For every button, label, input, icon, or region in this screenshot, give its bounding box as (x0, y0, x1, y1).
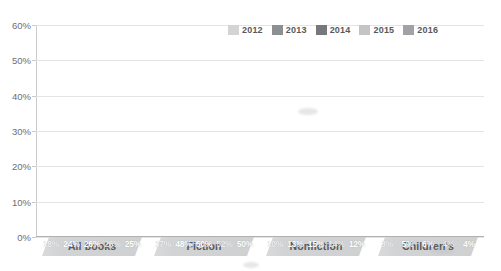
category-fiction: Fiction (148, 237, 260, 259)
category-nonfiction: Nonfiction (260, 237, 372, 259)
chart-legend: 20122013201420152016 (228, 25, 438, 35)
scuff-mark-2 (243, 262, 259, 268)
y-tick-label-60: 60% (12, 20, 31, 31)
bar-chart: 20122013201420152016 0%10%20%30%40%50%60… (0, 0, 501, 271)
y-tick-label-40: 40% (12, 90, 31, 101)
bar-group-all-books: 18%24%26%26%25% (36, 25, 148, 237)
category-label: Nonfiction (260, 240, 372, 252)
legend-label-2013: 2013 (286, 25, 307, 35)
plot-area: 0%10%20%30%40%50%60% 18%24%26%26%25%37%4… (36, 25, 484, 237)
category-label: Fiction (148, 240, 260, 252)
legend-item-2012[interactable]: 2012 (228, 25, 263, 35)
bar-group-fiction: 37%48%50%52%50% (148, 25, 260, 237)
bar-group-nonfiction: 10%13%15%14%12% (260, 25, 372, 237)
legend-swatch-2016 (403, 25, 414, 35)
category-label: All books (36, 240, 148, 252)
legend-label-2012: 2012 (242, 25, 263, 35)
legend-item-2014[interactable]: 2014 (316, 25, 351, 35)
y-tick-label-10: 10% (12, 196, 31, 207)
legend-swatch-2012 (228, 25, 239, 35)
y-tick-label-30: 30% (12, 126, 31, 137)
category-labels: All booksFictionNonfictionChildren's (36, 237, 484, 259)
legend-swatch-2015 (359, 25, 370, 35)
legend-label-2016: 2016 (417, 25, 438, 35)
legend-item-2016[interactable]: 2016 (403, 25, 438, 35)
legend-label-2015: 2015 (373, 25, 394, 35)
legend-label-2014: 2014 (330, 25, 351, 35)
category-all-books: All books (36, 237, 148, 259)
y-tick-label-0: 0% (17, 232, 31, 243)
bar-groups: 18%24%26%26%25%37%48%50%52%50%10%13%15%1… (36, 25, 484, 237)
legend-swatch-2014 (316, 25, 327, 35)
legend-item-2013[interactable]: 2013 (272, 25, 307, 35)
category-label: Children's (372, 240, 484, 252)
category-children-s: Children's (372, 237, 484, 259)
legend-item-2015[interactable]: 2015 (359, 25, 394, 35)
bar-group-children-s: 3%5%6%4%4% (372, 25, 484, 237)
legend-swatch-2013 (272, 25, 283, 35)
y-tick-label-50: 50% (12, 55, 31, 66)
y-tick-label-20: 20% (12, 161, 31, 172)
